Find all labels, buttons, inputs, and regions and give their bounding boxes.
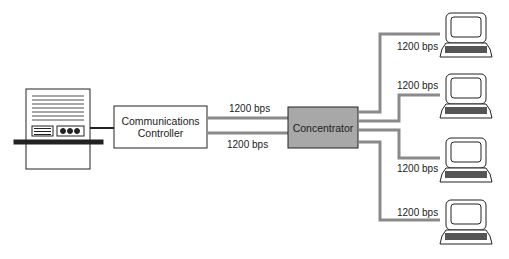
link-label: 1200 bps bbox=[397, 80, 438, 91]
link-label: 1200 bps bbox=[227, 139, 268, 150]
link-label: 1200 bps bbox=[397, 41, 438, 52]
link-label: 1200 bps bbox=[397, 207, 438, 218]
diagram-canvas bbox=[0, 0, 509, 259]
terminal-lines bbox=[358, 34, 440, 220]
controller-label-line2: Controller bbox=[138, 127, 184, 139]
controller-lines bbox=[207, 118, 288, 133]
terminal-icon bbox=[440, 74, 492, 118]
terminal-icon bbox=[440, 13, 492, 57]
link-label: 1200 bps bbox=[397, 163, 438, 174]
concentrator-label: Concentrator bbox=[288, 107, 358, 148]
link-label: 1200 bps bbox=[229, 103, 270, 114]
mainframe-icon bbox=[14, 89, 103, 169]
controller-label-line1: Communications bbox=[121, 115, 199, 127]
terminal-icon bbox=[440, 138, 492, 182]
controller-label: Communications Controller bbox=[114, 106, 207, 148]
terminal-icon bbox=[440, 200, 492, 244]
